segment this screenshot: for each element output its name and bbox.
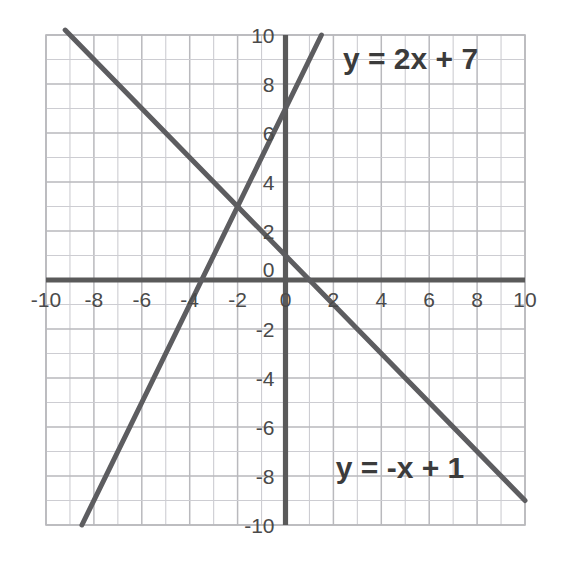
y-tick-label: 8 <box>263 73 275 96</box>
y-tick-label: 6 <box>263 122 275 145</box>
graph-canvas: -10-8-6-4-20246810 108642-2-4-6-8-100 y … <box>0 0 563 561</box>
x-tick-label: 6 <box>423 288 435 311</box>
y-tick-label: 4 <box>263 171 275 194</box>
x-tick-label: 4 <box>375 288 387 311</box>
x-tick-label: 10 <box>513 288 536 311</box>
y-tick-label: 2 <box>263 220 275 243</box>
equation-label-1: y = 2x + 7 <box>343 42 478 75</box>
y-tick-label: -10 <box>244 514 274 537</box>
x-tick-label: 8 <box>471 288 483 311</box>
x-tick-label: -4 <box>180 288 199 311</box>
x-tick-label: -10 <box>31 288 61 311</box>
y-tick-label: -6 <box>256 416 275 439</box>
y-tick-label-zero: 0 <box>263 258 275 281</box>
x-tick-label: 0 <box>280 288 292 311</box>
x-tick-label: -2 <box>228 288 247 311</box>
y-tick-label: -8 <box>256 465 275 488</box>
y-tick-label: 10 <box>251 24 274 47</box>
x-tick-label: -8 <box>85 288 104 311</box>
x-tick-label: -6 <box>132 288 151 311</box>
equation-label-2: y = -x + 1 <box>336 451 464 484</box>
y-tick-label: -2 <box>256 318 275 341</box>
y-tick-label: -4 <box>256 367 275 390</box>
coordinate-graph: -10-8-6-4-20246810 108642-2-4-6-8-100 y … <box>0 0 563 561</box>
x-tick-label: 2 <box>328 288 340 311</box>
